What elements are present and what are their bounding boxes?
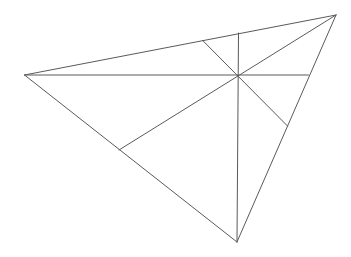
edge-left-topright bbox=[25, 15, 337, 75]
diagram-canvas bbox=[0, 0, 351, 257]
interior-segments bbox=[25, 15, 337, 242]
triangle-diagram bbox=[0, 0, 351, 257]
edge-topright-bottom bbox=[237, 15, 336, 242]
diagonal-topright-segment bbox=[119, 15, 336, 150]
triangle-edges bbox=[25, 15, 337, 242]
vertical-segment bbox=[237, 33, 239, 242]
edge-bottom-left bbox=[25, 75, 238, 242]
